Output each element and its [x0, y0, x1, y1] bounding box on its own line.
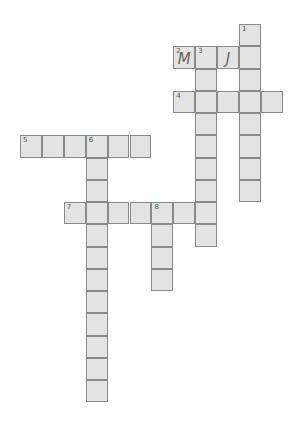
clue-number: 8	[154, 203, 158, 211]
crossword-cell[interactable]: 5	[20, 135, 42, 157]
crossword-cell[interactable]	[108, 135, 130, 157]
crossword-cell[interactable]	[195, 69, 217, 91]
crossword-cell[interactable]	[151, 269, 173, 291]
crossword-cell[interactable]	[239, 180, 261, 202]
crossword-cell[interactable]	[195, 202, 217, 224]
crossword-cell[interactable]	[86, 313, 108, 335]
crossword-cell[interactable]	[86, 380, 108, 402]
crossword-cell[interactable]	[239, 91, 261, 113]
crossword-cell[interactable]	[195, 113, 217, 135]
crossword-cell[interactable]	[195, 158, 217, 180]
clue-number: 7	[67, 203, 71, 211]
clue-number: 1	[242, 25, 246, 33]
crossword-cell[interactable]	[195, 135, 217, 157]
crossword-cell[interactable]: 2M	[173, 46, 195, 68]
crossword-cell[interactable]	[239, 69, 261, 91]
clue-number: 3	[198, 47, 202, 55]
crossword-cell[interactable]	[86, 269, 108, 291]
crossword-cell[interactable]: 7	[64, 202, 86, 224]
crossword-cell[interactable]	[173, 202, 195, 224]
crossword-cell[interactable]	[86, 224, 108, 246]
crossword-cell[interactable]	[86, 336, 108, 358]
crossword-cell[interactable]: 8	[151, 202, 173, 224]
cell-letter: M	[174, 50, 194, 68]
crossword-cell[interactable]	[108, 202, 130, 224]
crossword-cell[interactable]: J	[217, 46, 239, 68]
crossword-cell[interactable]: 1	[239, 24, 261, 46]
crossword-cell[interactable]	[151, 247, 173, 269]
crossword-cell[interactable]	[195, 224, 217, 246]
clue-number: 5	[23, 136, 27, 144]
crossword-cell[interactable]	[86, 291, 108, 313]
clue-number: 4	[176, 92, 180, 100]
crossword-cell[interactable]	[130, 135, 152, 157]
crossword-cell[interactable]	[86, 247, 108, 269]
crossword-cell[interactable]	[130, 202, 152, 224]
crossword-cell[interactable]	[195, 180, 217, 202]
crossword-cell[interactable]	[86, 158, 108, 180]
crossword-cell[interactable]	[195, 91, 217, 113]
crossword-cell[interactable]	[86, 358, 108, 380]
crossword-cell[interactable]	[217, 91, 239, 113]
crossword-cell[interactable]	[151, 224, 173, 246]
crossword-cell[interactable]: 6	[86, 135, 108, 157]
crossword-cell[interactable]: 3	[195, 46, 217, 68]
crossword-cell[interactable]	[261, 91, 283, 113]
crossword-cell[interactable]	[86, 180, 108, 202]
clue-number: 6	[89, 136, 93, 144]
crossword-cell[interactable]	[86, 202, 108, 224]
cell-letter: J	[218, 50, 238, 68]
crossword-cell[interactable]: 4	[173, 91, 195, 113]
crossword-cell[interactable]	[239, 135, 261, 157]
crossword-cell[interactable]	[239, 158, 261, 180]
crossword-cell[interactable]	[239, 46, 261, 68]
crossword-grid: 12M3J45678	[0, 0, 297, 421]
crossword-cell[interactable]	[42, 135, 64, 157]
crossword-cell[interactable]	[239, 113, 261, 135]
crossword-cell[interactable]	[64, 135, 86, 157]
